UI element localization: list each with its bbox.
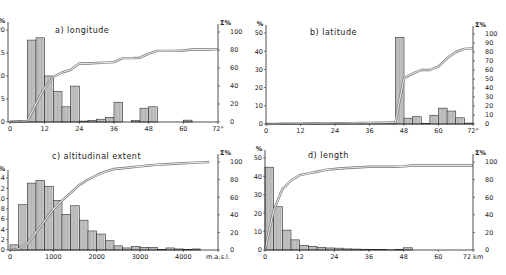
x-tick-label: 1000 <box>45 253 62 261</box>
x-tick-label: 0 <box>8 253 12 261</box>
y-tick-label: 50 <box>255 29 263 37</box>
y2-tick-label: 0 <box>485 120 489 128</box>
y2-tick-label: 90 <box>485 39 493 47</box>
y-unit-label: % <box>257 20 264 28</box>
x-tick-label: 12 <box>41 125 49 133</box>
y-tick-label: 15 <box>0 49 5 57</box>
x-tick-label: 2000 <box>88 253 105 261</box>
y2-tick-label: 40 <box>230 211 238 219</box>
x-tick-label: 36 <box>110 125 118 133</box>
x-tick-label: 60 <box>434 127 442 135</box>
y2-tick-label: 20 <box>485 229 493 237</box>
bars <box>266 38 473 125</box>
x-tick-label: 48 <box>145 125 153 133</box>
y2-tick-label: 30 <box>485 93 493 101</box>
x-tick-label: 12 <box>296 127 304 135</box>
y2-tick-label: 20 <box>485 102 493 110</box>
y2-unit-label: Σ% <box>220 19 231 27</box>
chart-canvas: 0122436486072°05101520%020406080100Σ%a) … <box>0 0 506 275</box>
y-tick-label: 40 <box>255 48 263 56</box>
y-tick-label: 20 <box>0 26 5 34</box>
x-tick-label: 12 <box>296 253 304 261</box>
x-tick-label: 24 <box>75 125 83 133</box>
y-tick-label: 40 <box>254 173 262 181</box>
x-tick-label: 24 <box>330 253 338 261</box>
y-tick-label: 10 <box>255 102 263 110</box>
y-unit-label: % <box>0 17 6 25</box>
y2-unit-label: Σ% <box>220 149 231 157</box>
y-tick-label: 0 <box>258 246 262 254</box>
panel-title: a) longitude <box>55 26 109 35</box>
x-tick-label: 3000 <box>132 253 149 261</box>
x-tick-label: 48 <box>400 253 408 261</box>
y2-tick-label: 20 <box>230 100 238 108</box>
y-tick-label: 12 <box>0 185 5 193</box>
bars <box>265 167 412 250</box>
y2-tick-label: 100 <box>230 28 242 36</box>
y2-tick-label: 60 <box>230 64 238 72</box>
y-unit-label: % <box>0 165 6 173</box>
y2-tick-label: 80 <box>230 176 238 184</box>
x-tick-label: 60 <box>434 253 442 261</box>
y2-unit-label: Σ% <box>475 21 486 29</box>
y2-tick-label: 100 <box>230 158 242 166</box>
y-tick-label: 20 <box>255 84 263 92</box>
y2-tick-label: 0 <box>230 118 234 126</box>
y-tick-label: 10 <box>0 72 5 80</box>
y2-tick-label: 100 <box>485 158 497 166</box>
y-tick-label: 2 <box>1 236 5 244</box>
y2-tick-label: 60 <box>485 66 493 74</box>
y2-tick-label: 10 <box>485 111 493 119</box>
y-unit-label: % <box>256 145 263 153</box>
y-tick-label: 20 <box>254 210 262 218</box>
x-tick-label: 0 <box>263 253 267 261</box>
y2-tick-label: 40 <box>230 82 238 90</box>
y2-tick-label: 40 <box>485 211 493 219</box>
y2-tick-label: 80 <box>230 46 238 54</box>
y-tick-label: 6 <box>1 215 5 223</box>
y2-tick-label: 60 <box>230 194 238 202</box>
x-tick-label: m.a.s.l. <box>206 253 230 261</box>
x-tick-label: 72° <box>467 127 479 135</box>
y2-tick-label: 40 <box>485 84 493 92</box>
x-tick-label: 0 <box>264 127 268 135</box>
bars <box>10 181 201 250</box>
cumulative-line-outline <box>265 166 473 251</box>
x-tick-label: 60 <box>179 125 187 133</box>
y-tick-label: 5 <box>1 95 5 103</box>
y-tick-label: 0 <box>1 118 5 126</box>
y-tick-label: 0 <box>1 246 5 254</box>
x-tick-label: 72° <box>212 125 224 133</box>
y2-tick-label: 70 <box>485 57 493 65</box>
panel-c: 01000200030004000m.a.s.l.02468101214%020… <box>0 149 242 261</box>
y-tick-label: 10 <box>254 228 262 236</box>
panel-a: 0122436486072°05101520%020406080100Σ%a) … <box>0 17 242 133</box>
y2-tick-label: 0 <box>230 246 234 254</box>
y-tick-label: 4 <box>1 226 5 234</box>
y2-unit-label: Σ% <box>475 149 486 157</box>
y2-tick-label: 100 <box>485 30 497 38</box>
y-tick-label: 14 <box>0 174 5 182</box>
y2-tick-label: 60 <box>485 194 493 202</box>
y-tick-label: 8 <box>1 205 5 213</box>
y-tick-label: 30 <box>255 66 263 74</box>
panel-title: b) latitude <box>310 28 357 37</box>
y2-tick-label: 80 <box>485 176 493 184</box>
y2-tick-label: 0 <box>485 246 489 254</box>
y-tick-label: 50 <box>254 154 262 162</box>
y-tick-label: 10 <box>0 195 5 203</box>
x-tick-label: 0 <box>8 125 12 133</box>
panel-b: 0122436486072°01020304050%01020304050607… <box>255 20 498 135</box>
x-tick-label: 36 <box>365 253 373 261</box>
y2-tick-label: 50 <box>485 75 493 83</box>
x-tick-label: 4000 <box>175 253 192 261</box>
x-tick-label: 72 km <box>463 253 483 261</box>
x-tick-label: 24 <box>331 127 339 135</box>
x-tick-label: 36 <box>365 127 373 135</box>
panel-title: d) length <box>308 151 349 160</box>
y2-tick-label: 80 <box>485 48 493 56</box>
y-tick-label: 0 <box>259 120 263 128</box>
panel-d: 0122436486072 km01020304050%020406080100… <box>254 145 498 261</box>
panel-title: c) altitudinal extent <box>52 152 141 161</box>
x-tick-label: 48 <box>400 127 408 135</box>
